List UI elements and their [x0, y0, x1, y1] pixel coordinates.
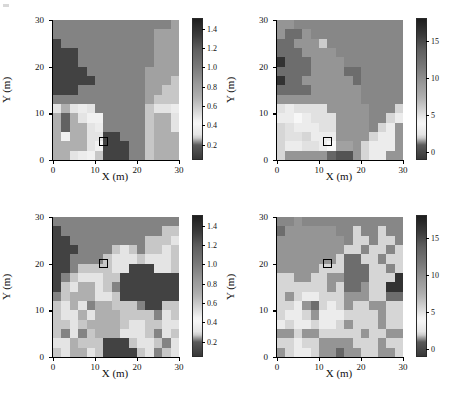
heat-cell	[112, 320, 120, 329]
heat-cell	[327, 113, 335, 122]
colorbar-tick-label: 0.8	[207, 279, 217, 288]
heat-cell	[61, 226, 69, 235]
colorbar-tick	[426, 41, 429, 42]
heat-cell	[344, 264, 352, 273]
heat-cell	[70, 39, 78, 48]
heat-cell	[112, 132, 120, 141]
heat-cell	[162, 39, 170, 48]
heat-cell	[137, 310, 145, 319]
y-tick	[49, 264, 53, 265]
heat-cell	[53, 104, 61, 113]
heat-cell	[386, 320, 394, 329]
heat-cell	[277, 226, 285, 235]
heat-cell	[78, 217, 86, 226]
heat-cell	[277, 113, 285, 122]
heat-cell	[78, 282, 86, 291]
heat-cell	[137, 85, 145, 94]
heat-cell	[302, 123, 310, 132]
heat-cell	[302, 236, 310, 245]
heat-cell	[319, 338, 327, 347]
heat-cell	[137, 301, 145, 310]
x-tick	[277, 160, 278, 164]
colorbar-bottom-right: 051015	[416, 215, 427, 357]
heat-cell	[87, 132, 95, 141]
heat-cell	[61, 141, 69, 150]
heat-cell	[294, 282, 302, 291]
heat-cell	[386, 254, 394, 263]
heat-cell	[120, 292, 128, 301]
heat-cell	[112, 264, 120, 273]
heat-cell	[353, 320, 361, 329]
heat-cell	[361, 236, 369, 245]
heat-cell	[311, 39, 319, 48]
heat-cell	[336, 29, 344, 38]
heat-cell	[162, 329, 170, 338]
heat-cell	[294, 141, 302, 150]
y-tick-label: 10	[35, 305, 44, 315]
heat-cell	[154, 282, 162, 291]
heat-cell	[120, 320, 128, 329]
heat-cell	[302, 320, 310, 329]
heat-cell	[294, 67, 302, 76]
heat-cell	[336, 217, 344, 226]
heat-cell	[336, 254, 344, 263]
colorbar-tick	[202, 106, 205, 107]
heat-cell	[344, 254, 352, 263]
heat-cell	[344, 48, 352, 57]
heat-cell	[302, 20, 310, 29]
heat-cell	[70, 301, 78, 310]
heat-cell	[395, 95, 403, 104]
heat-cell	[311, 348, 319, 357]
heat-cell	[344, 329, 352, 338]
heat-cell	[171, 113, 179, 122]
heat-cell	[369, 273, 377, 282]
heat-cell	[378, 226, 386, 235]
colorbar-tick-label: 0	[431, 344, 435, 353]
heat-cell	[319, 217, 327, 226]
heat-cell	[353, 236, 361, 245]
heat-cell	[53, 236, 61, 245]
heat-cell	[378, 141, 386, 150]
heat-cell	[361, 264, 369, 273]
heat-cell	[353, 20, 361, 29]
heat-cell	[319, 20, 327, 29]
heat-cell	[395, 245, 403, 254]
heat-cell	[336, 123, 344, 132]
heat-cell	[145, 329, 153, 338]
colorbar-gradient	[417, 216, 426, 356]
heat-cell	[145, 217, 153, 226]
heat-cell	[103, 282, 111, 291]
colorbar-tick	[202, 303, 205, 304]
heat-cell	[327, 292, 335, 301]
colorbar-tick	[426, 152, 429, 153]
heat-cell	[395, 301, 403, 310]
heat-cell	[302, 301, 310, 310]
heat-cell	[154, 29, 162, 38]
heat-cell	[129, 338, 137, 347]
heat-cell	[53, 67, 61, 76]
heat-cell	[361, 132, 369, 141]
heat-cell	[277, 273, 285, 282]
heat-cell	[137, 132, 145, 141]
heat-cell	[129, 226, 137, 235]
heat-cell	[171, 39, 179, 48]
heat-cell	[78, 29, 86, 38]
heat-cell	[171, 20, 179, 29]
heat-cell	[120, 217, 128, 226]
heat-cell	[344, 67, 352, 76]
x-tick	[95, 160, 96, 164]
heat-cell	[129, 348, 137, 357]
heat-cell	[344, 151, 352, 160]
heat-cell	[171, 57, 179, 66]
heat-cell	[361, 48, 369, 57]
heat-cell	[154, 217, 162, 226]
heat-cell	[302, 57, 310, 66]
y-tick-label: 20	[259, 62, 268, 72]
heat-cell	[70, 67, 78, 76]
heat-cell	[78, 273, 86, 282]
heat-cell	[70, 282, 78, 291]
heat-cell	[302, 95, 310, 104]
heat-cell	[154, 123, 162, 132]
heat-cell	[336, 151, 344, 160]
heat-cell	[386, 76, 394, 85]
